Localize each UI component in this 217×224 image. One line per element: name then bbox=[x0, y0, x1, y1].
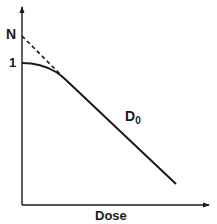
y-label-one: 1 bbox=[9, 56, 16, 69]
slope-label-d0: D0 bbox=[125, 109, 141, 126]
diagram-canvas bbox=[0, 0, 217, 224]
survival-curve bbox=[22, 63, 176, 184]
x-axis-label: Dose bbox=[95, 209, 127, 222]
survival-curve-diagram: N 1 D0 Dose bbox=[0, 0, 217, 224]
y-label-n: N bbox=[6, 27, 16, 41]
extrapolation-dashed-line bbox=[22, 36, 62, 76]
d0-subscript: 0 bbox=[135, 115, 141, 126]
d0-main: D bbox=[125, 108, 135, 124]
